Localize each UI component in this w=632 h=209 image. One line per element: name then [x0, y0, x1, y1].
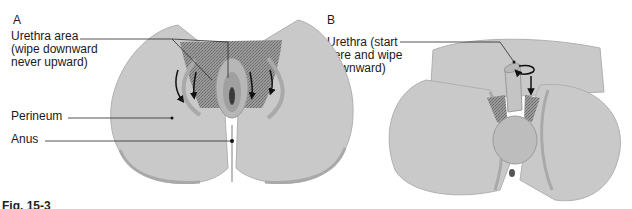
- panel-b-illustration: [389, 39, 620, 201]
- panel-a-illustration: [45, 20, 353, 183]
- anatomical-figure: [0, 0, 632, 209]
- figure-caption: Fig. 15-3: [2, 199, 51, 209]
